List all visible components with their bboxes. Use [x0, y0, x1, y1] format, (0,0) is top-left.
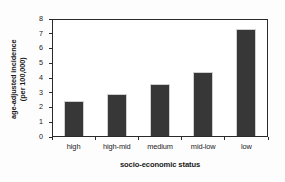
x-axis-tick-mark — [224, 137, 225, 140]
x-axis-title: socio-economic status — [52, 160, 268, 169]
chart-figure: age-adjusted incidence (per 100,000) 012… — [0, 0, 285, 182]
y-axis-tick-label: 7 — [39, 29, 43, 39]
bar-slot — [181, 20, 224, 136]
bar-slot — [139, 20, 182, 136]
bar-medium — [150, 84, 170, 136]
y-axis-tick-label: 2 — [39, 102, 43, 112]
x-axis-tick-label: medium — [138, 142, 181, 151]
bar-low — [236, 29, 256, 136]
y-axis-title-line-2: (per 100,000) — [18, 39, 27, 119]
x-axis-tick-label: high — [52, 142, 95, 151]
y-axis-tick-label: 3 — [39, 88, 43, 98]
bar-series — [53, 20, 267, 136]
x-axis-tick-label: low — [225, 142, 268, 151]
x-axis-tick-label: mid-low — [182, 142, 225, 151]
x-axis-tick-mark — [52, 137, 53, 140]
bar-slot — [96, 20, 139, 136]
y-axis-tick-label: 6 — [39, 43, 43, 53]
bar-mid-low — [193, 72, 213, 136]
x-axis-tick-label: high-mid — [95, 142, 138, 151]
x-axis-tick-mark — [268, 137, 269, 140]
y-axis-tick-label: 1 — [39, 117, 43, 127]
y-axis-tick-label: 4 — [39, 73, 43, 83]
bar-high-mid — [107, 94, 127, 136]
x-axis-tick-mark — [181, 137, 182, 140]
y-axis-tick-label: 5 — [39, 58, 43, 68]
x-axis-tick-labels: highhigh-midmediummid-lowlow — [52, 142, 268, 151]
y-axis-tick-label: 0 — [39, 132, 43, 142]
y-axis-title-line-1: age-adjusted incidence — [9, 39, 18, 119]
bar-slot — [53, 20, 96, 136]
y-axis-tick-label: 8 — [39, 14, 43, 24]
x-axis-tick-mark — [138, 137, 139, 140]
plot-area — [52, 19, 268, 137]
bar-slot — [224, 20, 267, 136]
bar-high — [64, 101, 84, 136]
y-axis-title: age-adjusted incidence (per 100,000) — [6, 18, 30, 140]
x-axis-tick-mark — [95, 137, 96, 140]
